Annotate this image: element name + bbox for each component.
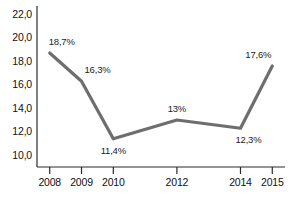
data-point-label: 16,3% bbox=[85, 64, 112, 75]
data-point-labels: 18,7%16,3%11,4%13%12,3%17,6% bbox=[49, 36, 272, 156]
y-axis-tick-label: 10,0 bbox=[12, 149, 32, 161]
x-axis-tick-label: 2008 bbox=[38, 176, 61, 188]
data-point-label: 13% bbox=[168, 103, 187, 114]
x-axis-tick-label: 2009 bbox=[70, 176, 93, 188]
series-line bbox=[50, 53, 273, 139]
y-axis-tick-label: 16,0 bbox=[12, 78, 32, 90]
data-point-label: 12,3% bbox=[236, 134, 263, 145]
y-axis-tick-labels: 10,012,014,016,018,020,022,0 bbox=[12, 8, 32, 161]
y-axis-tick-label: 22,0 bbox=[12, 8, 32, 20]
y-axis-tick-label: 18,0 bbox=[12, 55, 32, 67]
y-axis-tick-label: 14,0 bbox=[12, 102, 32, 114]
data-point-label: 18,7% bbox=[49, 36, 76, 47]
x-axis-tick-labels: 200820092010201220142015 bbox=[38, 176, 283, 188]
data-point-label: 17,6% bbox=[245, 49, 272, 60]
x-axis-tick-label: 2012 bbox=[166, 176, 189, 188]
x-axis-tick-label: 2010 bbox=[102, 176, 125, 188]
y-axis: 10,012,014,016,018,020,022,0 bbox=[12, 6, 37, 167]
data-point-label: 11,4% bbox=[101, 145, 127, 156]
y-axis-tick-label: 12,0 bbox=[12, 125, 32, 137]
data-series bbox=[50, 53, 273, 139]
x-axis-tick-marks bbox=[50, 167, 273, 174]
x-axis-tick-label: 2014 bbox=[229, 176, 252, 188]
x-axis-tick-label: 2015 bbox=[261, 176, 284, 188]
chart-canvas: 10,012,014,016,018,020,022,0 20082009201… bbox=[0, 0, 291, 203]
y-axis-tick-label: 20,0 bbox=[12, 31, 32, 43]
line-chart: 10,012,014,016,018,020,022,0 20082009201… bbox=[0, 0, 291, 203]
x-axis: 200820092010201220142015 bbox=[37, 167, 285, 188]
